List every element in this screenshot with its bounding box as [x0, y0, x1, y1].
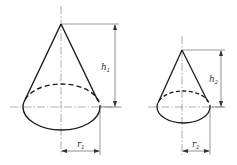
cone-2-base-visible-arc: [157, 107, 210, 123]
cone-diagram: h1 r1 h2 r2: [0, 0, 237, 165]
cone-1: h1 r1: [10, 6, 122, 155]
cone-1-height-label: h1: [101, 62, 110, 73]
cone-1-right-side: [61, 24, 98, 101]
cone-2-left-side: [158, 50, 182, 103]
cone-2-radius-label: r2: [192, 139, 200, 150]
cone-1-radius-label: r1: [77, 139, 85, 150]
cone-2-base-hidden-arc: [157, 91, 210, 107]
cone-2: h2 r2: [148, 36, 226, 155]
cone-2-height-label: h2: [209, 74, 218, 85]
cone-1-left-side: [24, 24, 61, 102]
cone-1-base-visible-arc: [23, 107, 100, 130]
cone-2-right-side: [182, 50, 208, 102]
cone-1-base-hidden-arc: [23, 84, 100, 107]
